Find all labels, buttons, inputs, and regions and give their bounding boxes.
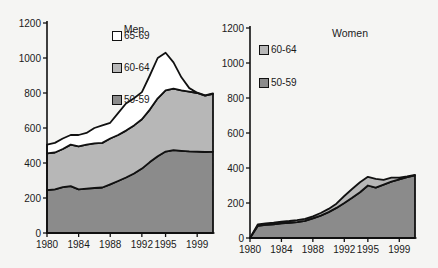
legend-label: 60-64 bbox=[124, 62, 150, 73]
legend-label: 50-59 bbox=[124, 94, 150, 105]
women-y-tick-label: 200 bbox=[227, 198, 244, 209]
legend-label: 50-59 bbox=[271, 77, 297, 88]
women-x-tick-label: 1999 bbox=[388, 244, 411, 255]
women-legend-item-60-64: 60-64 bbox=[259, 44, 297, 55]
legend-swatch-icon bbox=[112, 31, 122, 41]
men-y-tick-label: 600 bbox=[24, 123, 41, 134]
women-chart: 0200400600800100012001980198419881992199… bbox=[219, 0, 438, 268]
women-x-tick-label: 1988 bbox=[302, 244, 325, 255]
men-y-tick-label: 400 bbox=[24, 158, 41, 169]
men-x-tick-label: 1999 bbox=[186, 239, 209, 250]
women-y-tick-label: 1000 bbox=[222, 58, 245, 69]
legend-label: 65-69 bbox=[124, 30, 150, 41]
women-y-tick-label: 800 bbox=[227, 93, 244, 104]
legend-swatch-icon bbox=[112, 63, 122, 73]
women-y-tick-label: 600 bbox=[227, 128, 244, 139]
men-y-tick-label: 1000 bbox=[19, 53, 42, 64]
women-legend-item-50-59: 50-59 bbox=[259, 77, 297, 88]
men-x-tick-label: 1988 bbox=[99, 239, 122, 250]
men-x-tick-label: 1984 bbox=[67, 239, 90, 250]
women-chart-title: Women bbox=[332, 28, 368, 39]
women-x-tick-label: 1995 bbox=[357, 244, 380, 255]
men-legend-item-60-64: 60-64 bbox=[112, 62, 150, 73]
men-y-tick-label: 800 bbox=[24, 88, 41, 99]
men-legend-item-65-69: 65-69 bbox=[112, 30, 150, 41]
women-y-tick-label: 1200 bbox=[222, 23, 245, 34]
women-x-tick-label: 1992 bbox=[333, 244, 356, 255]
men-y-tick-label: 1200 bbox=[19, 18, 42, 29]
women-y-tick-label: 400 bbox=[227, 163, 244, 174]
men-x-tick-label: 1992 bbox=[131, 239, 154, 250]
women-x-tick-label: 1980 bbox=[239, 244, 262, 255]
legend-swatch-icon bbox=[259, 78, 269, 88]
stacked-area-figure: 0200400600800100012001980198419881992199… bbox=[0, 0, 438, 268]
men-legend-item-50-59: 50-59 bbox=[112, 94, 150, 105]
men-x-tick-label: 1980 bbox=[36, 239, 59, 250]
women-legend: 60-6450-59 bbox=[259, 44, 297, 110]
men-y-tick-label: 200 bbox=[24, 193, 41, 204]
men-y-tick-label: 0 bbox=[35, 228, 41, 239]
men-x-tick-label: 1995 bbox=[154, 239, 177, 250]
men-legend: 65-6960-6450-59 bbox=[112, 30, 150, 126]
legend-swatch-icon bbox=[259, 45, 269, 55]
legend-swatch-icon bbox=[112, 95, 122, 105]
women-x-tick-label: 1984 bbox=[270, 244, 293, 255]
legend-label: 60-64 bbox=[271, 44, 297, 55]
women-y-tick-label: 0 bbox=[238, 233, 244, 244]
men-chart: 0200400600800100012001980198419881992199… bbox=[0, 0, 219, 268]
